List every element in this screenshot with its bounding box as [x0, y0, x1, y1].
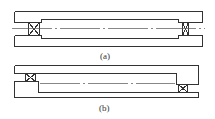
bearing-right-a [183, 23, 189, 36]
shaft-top-b [36, 74, 179, 85]
lower-housing-a [15, 36, 203, 47]
lower-housing-b [15, 82, 199, 98]
bearing-left-b [26, 74, 36, 82]
bearing-left-a [29, 23, 40, 36]
shaft-top-a [40, 20, 183, 23]
figure-label-a: (a) [100, 51, 110, 61]
bearing-right-b [179, 85, 188, 93]
figure-a [12, 12, 205, 47]
figure-b [15, 66, 199, 98]
figure-label-b: (b) [99, 103, 110, 113]
upper-housing-b [15, 66, 199, 85]
upper-housing-a [15, 12, 203, 23]
shaft-bottom-a [40, 36, 183, 39]
